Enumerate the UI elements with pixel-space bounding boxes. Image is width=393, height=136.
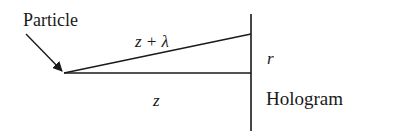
particle-label: Particle xyxy=(23,10,78,30)
slant-path-label: z + λ xyxy=(134,32,169,51)
direct-path-label: z xyxy=(152,91,160,110)
hologram-label: Hologram xyxy=(266,88,343,109)
particle-pointer-arrow xyxy=(26,34,62,71)
hologram-geometry-diagram: Particle z + λ z r Hologram xyxy=(0,0,393,136)
radius-label: r xyxy=(267,49,274,68)
